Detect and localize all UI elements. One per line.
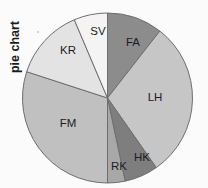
pie-slices-group [22, 13, 192, 183]
pie-slice-label-rk: RK [111, 160, 127, 172]
pie-slice-label-kr: KR [60, 44, 76, 56]
pie-slice-label-lh: LH [148, 91, 163, 103]
pie-chart-canvas: FALHHKRKFMKRSV [0, 0, 208, 188]
pie-slice-label-hk: HK [134, 151, 150, 163]
pie-slice-label-sv: SV [90, 25, 106, 37]
pie-slice-label-fa: FA [126, 36, 140, 48]
pie-slice-label-fm: FM [60, 117, 77, 129]
pie-chart-figure: pie chart FALHHKRKFMKRSV [0, 0, 208, 188]
